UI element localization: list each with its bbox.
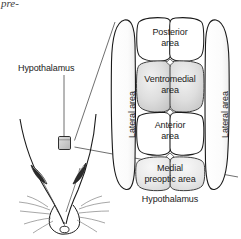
region-label-posterior-line1: Posterior <box>133 27 207 37</box>
region-label-medial-preoptic-line1: Medial <box>131 163 209 173</box>
rodent-head-illustration <box>19 114 110 234</box>
region-label-anterior-line2: area <box>133 131 207 141</box>
figure-canvas: pre- Hypothalamus Posterior area Ventrom… <box>0 0 241 239</box>
region-label-lateral-right: Lateral area <box>220 91 230 138</box>
callout-target-caption: Hypothalamus <box>130 194 210 204</box>
region-label-ventromedial-line2: area <box>130 85 210 95</box>
cropped-running-text: pre- <box>1 0 19 9</box>
region-label-medial-preoptic-line2: preoptic area <box>128 174 212 184</box>
region-label-anterior-line1: Anterior <box>133 120 207 130</box>
region-label-ventromedial-line1: Ventromedial <box>130 74 210 84</box>
region-label-lateral-left: Lateral area <box>127 91 137 138</box>
region-label-posterior-line2: area <box>133 38 207 48</box>
callout-source-label: Hypothalamus <box>18 63 74 73</box>
